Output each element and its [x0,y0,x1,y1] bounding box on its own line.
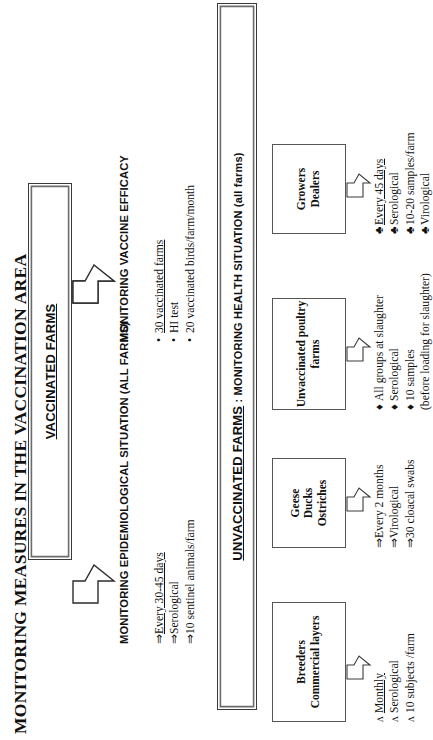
unvaccinated-farms-box: UNVACCINATED FARMS : MONITORING HEALTH S… [217,3,257,710]
list-item-label: Virological [388,486,401,538]
list-item: ʌ10 subjects /farm [403,633,418,722]
list-item-label: Monthly [373,673,386,713]
diamond-bullet-icon: ♦ [387,401,402,410]
caret-marker-icon: ʌ [372,713,387,722]
list-item-label: 10-20 samples/farm [404,133,417,225]
list-item: ⇒10 sentinel animals/farm [183,519,198,644]
list-item-label: 20 vaccinated birds/farm/month [184,185,197,333]
list-item: ♣10-20 samples/farm [403,133,418,234]
list-item: ♣Virological [418,133,433,234]
list-item-label: Every 45 days [373,159,386,225]
double-arrow-icon: ⇒ [372,538,387,548]
list-item-label: 10 sentinel animals/farm [184,519,197,634]
category-line: Commercial layers [309,616,323,709]
club-bullet-icon: ♣ [403,225,418,234]
double-arrow-icon: ⇒ [403,538,418,548]
block-arrow-down-small-icon [346,654,372,690]
list-item-label: Virological [419,173,432,225]
list-item: ♦All groups at slaughter [372,273,387,410]
list-unvaccinated-poultry-farms: ♦All groups at slaughter ♦Serological ♦1… [372,273,433,410]
caret-marker-icon: ʌ [387,713,402,722]
list-item: ♦Serological [387,273,402,410]
category-line: Breeders [295,640,309,684]
list-item-label: Serological [388,172,401,225]
unvaccinated-farms-label: UNVACCINATED FARMS : MONITORING HEALTH S… [230,152,245,560]
category-line: Ducks [302,488,316,519]
block-arrow-down-icon [72,564,116,620]
club-bullet-icon: ♣ [418,225,433,234]
list-item-label: All groups at slaughter [373,295,386,401]
list-item: ♣Every 45 days [372,133,387,234]
club-bullet-icon: ♣ [372,225,387,234]
list-geese-ducks-ostriches: ⇒Every 2 months ⇒Virological ⇒30 cloacal… [372,459,418,548]
category-line: Unvaccinated poultry [295,301,309,407]
caret-marker-icon: ʌ [403,713,418,722]
vaccinated-farms-label: VACCINATED FARMS [43,304,58,440]
list-item-label: Serological [388,660,401,713]
list-item: ⇒30 cloacal swabs [403,459,418,548]
double-arrow-icon: ⇒ [183,634,198,644]
list-item: ⇒Virological [387,459,402,548]
list-item-label: Serological [388,348,401,401]
bullet-icon: • [167,333,182,342]
list-vaccine-efficacy: •30 vaccinated farms •HI test •20 vaccin… [152,185,198,342]
category-box-unvaccinated-poultry-farms: Unvaccinated poultry farms [272,298,346,410]
bullet-icon: • [183,333,198,342]
category-line: Growers [295,168,309,211]
list-item-label: Every 2 months [373,465,386,538]
category-line: Geese [289,489,303,518]
double-arrow-icon: ⇒ [167,634,182,644]
double-arrow-icon: ⇒ [387,538,402,548]
club-bullet-icon: ♣ [387,225,402,234]
block-arrow-down-icon [72,264,116,320]
list-item: ʌMonthly [372,633,387,722]
bullet-icon: • [152,333,167,342]
list-item: •HI test [167,185,182,342]
category-line: farms [309,340,323,369]
block-arrow-down-small-icon [346,486,372,522]
list-item: •30 vaccinated farms [152,185,167,342]
list-note: (before loading for slaughter) [418,273,433,410]
list-item: ⇒Every 2 months [372,459,387,548]
list-item: ⇒Every 30-45 days [152,519,167,644]
heading-monitoring-vaccine-efficacy: MONITORING VACCINE EFFICACY [118,155,130,342]
list-item: •20 vaccinated birds/farm/month [183,185,198,342]
list-item: ⇒Serological [167,519,182,644]
block-arrow-down-small-icon [346,172,372,208]
list-item-label: Every 30-45 days [153,552,166,634]
list-item-label: 10 subjects /farm [404,633,417,713]
list-epidemiological-situation: ⇒Every 30-45 days ⇒Serological ⇒10 senti… [152,519,198,644]
diamond-bullet-icon: ♦ [403,401,418,410]
category-box-growers-dealers: Growers Dealers [272,144,346,234]
diamond-bullet-icon: ♦ [372,401,387,410]
category-box-geese-ducks-ostriches: Geese Ducks Ostriches [272,458,346,548]
heading-monitoring-epidemiological-situation: MONITORING EPIDEMIOLOGICAL SITUATION (AL… [118,322,130,644]
list-item-label: Serological [168,581,181,634]
list-item-label: HI test [168,302,181,333]
list-item: ♦10 samples [403,273,418,410]
category-box-breeders: Breeders Commercial layers [272,602,346,722]
list-item-label: 10 samples [404,349,417,401]
list-growers-dealers: ♣Every 45 days ♣Serological ♣10-20 sampl… [372,133,433,234]
block-arrow-down-small-icon [346,336,372,372]
category-line: Dealers [309,170,323,207]
vaccinated-farms-box: VACCINATED FARMS [28,183,72,560]
category-line: Ostriches [316,480,330,527]
list-breeders-commercial-layers: ʌMonthly ʌSerological ʌ10 subjects /farm [372,633,418,722]
list-item-label: 30 cloacal swabs [404,459,417,538]
double-arrow-icon: ⇒ [152,634,167,644]
list-item-label: 30 vaccinated farms [153,240,166,333]
list-item: ʌSerological [387,633,402,722]
list-item: ♣Serological [387,133,402,234]
